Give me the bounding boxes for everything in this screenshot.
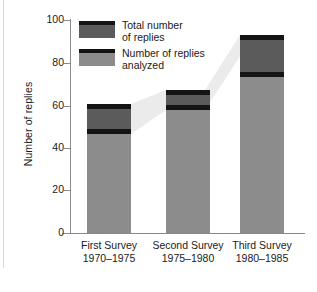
x-label-third-line1: Third Survey [216, 239, 308, 252]
y-tick-100 [64, 20, 71, 21]
y-tick-60 [64, 106, 71, 107]
bar-cap-analyzed-second [166, 105, 210, 110]
y-tick-label-40: 40 [24, 142, 64, 153]
bar-first-survey [87, 104, 131, 233]
chart-container: Number of replies 100 80 60 40 20 0 [0, 0, 317, 292]
bar-segment-analyzed-first [87, 131, 131, 233]
bar-cap-total-first [87, 104, 131, 109]
y-tick-label-0: 0 [24, 227, 64, 238]
legend-swatch-total [79, 21, 115, 38]
y-tick-label-100: 100 [24, 14, 64, 25]
bar-third-survey [240, 35, 284, 233]
y-tick-label-20: 20 [24, 184, 64, 195]
legend-swatch-cap-total [79, 21, 115, 25]
x-axis-line [62, 233, 305, 234]
bar-segment-analyzed-third [240, 74, 284, 233]
bar-segment-analyzed-second [166, 107, 210, 233]
legend-swatch-analyzed [79, 49, 115, 66]
legend-label-analyzed-line1: Number of replies [122, 47, 205, 59]
page-edge-rule [3, 0, 4, 268]
x-label-third-survey: Third Survey 1980–1985 [216, 239, 308, 265]
legend-label-total: Total number of replies [122, 20, 183, 43]
bar-cap-analyzed-first [87, 129, 131, 134]
bar-segment-total-third [240, 35, 284, 74]
legend-item-analyzed: Number of replies analyzed [79, 48, 205, 71]
bar-cap-analyzed-third [240, 72, 284, 77]
y-tick-label-80: 80 [24, 57, 64, 68]
legend-label-analyzed: Number of replies analyzed [122, 48, 205, 71]
y-axis-line [70, 19, 71, 234]
legend-swatch-cap-analyzed [79, 49, 115, 53]
chart-legend: Total number of replies Number of replie… [79, 20, 205, 76]
bar-second-survey [166, 90, 210, 233]
x-label-third-line2: 1980–1985 [216, 252, 308, 265]
legend-item-total: Total number of replies [79, 20, 205, 43]
y-tick-label-60: 60 [24, 100, 64, 111]
y-axis-title: Number of replies [22, 54, 34, 194]
bar-cap-total-second [166, 90, 210, 95]
bar-cap-total-third [240, 35, 284, 40]
legend-label-total-line2: of replies [122, 31, 165, 43]
y-tick-80 [64, 63, 71, 64]
y-tick-20 [64, 190, 71, 191]
legend-label-total-line1: Total number [122, 19, 183, 31]
legend-label-analyzed-line2: analyzed [122, 59, 164, 71]
y-tick-40 [64, 148, 71, 149]
